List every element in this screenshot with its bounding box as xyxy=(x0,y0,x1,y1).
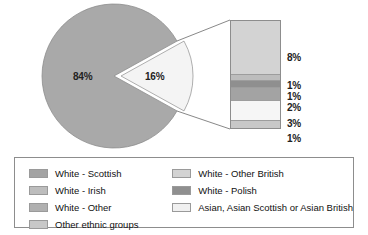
bar-segment-scottish xyxy=(231,88,280,101)
legend-label: White - Scottish xyxy=(55,169,122,179)
callout-line-bottom xyxy=(177,111,230,129)
callout-line-top xyxy=(177,20,230,41)
legend-label: Asian, Asian Scottish or Asian British xyxy=(198,203,353,213)
chart-figure: 84% 16% 8% 1% 1% 2% 3% 1% White - Scotti… xyxy=(0,0,368,235)
legend-label: White - Other xyxy=(55,203,112,213)
legend-item-white-scottish: White - Scottish xyxy=(29,165,172,182)
legend-column-right: White - Other British White - Polish Asi… xyxy=(172,165,353,233)
stacked-bar-labels: 8% 1% 1% 2% 3% 1% xyxy=(287,20,327,129)
legend-item-white-polish: White - Polish xyxy=(172,182,353,199)
legend-label: White - Other British xyxy=(198,169,284,179)
legend-swatch-icon xyxy=(29,186,48,195)
bar-segment-polish xyxy=(231,81,280,88)
bar-label-5: 1% xyxy=(287,133,301,144)
legend-swatch-icon xyxy=(29,169,48,178)
legend-label: Other ethnic groups xyxy=(55,220,138,230)
legend-label: White - Polish xyxy=(198,186,257,196)
legend-swatch-icon xyxy=(172,169,191,178)
stacked-bar xyxy=(230,20,281,129)
legend-item-other-ethnic-groups: Other ethnic groups xyxy=(29,216,172,233)
bar-segment-asian xyxy=(231,101,280,121)
legend-item-asian: Asian, Asian Scottish or Asian British xyxy=(172,199,353,216)
bar-segment-other-british xyxy=(231,21,280,75)
pie-label-16: 16% xyxy=(145,71,164,82)
bar-label-4: 3% xyxy=(287,118,301,129)
legend-item-white-other-british: White - Other British xyxy=(172,165,353,182)
bar-label-1: 1% xyxy=(287,80,301,91)
legend-item-white-irish: White - Irish xyxy=(29,182,172,199)
legend-swatch-icon xyxy=(172,186,191,195)
legend-label: White - Irish xyxy=(55,186,106,196)
bar-label-3: 2% xyxy=(287,102,301,113)
legend-swatch-icon xyxy=(29,220,48,229)
legend: White - Scottish White - Irish White - O… xyxy=(14,157,354,228)
legend-swatch-icon xyxy=(29,203,48,212)
pie-label-84: 84% xyxy=(73,71,92,82)
legend-swatch-icon xyxy=(172,203,191,212)
bar-segment-irish xyxy=(231,75,280,82)
legend-column-left: White - Scottish White - Irish White - O… xyxy=(29,165,172,233)
legend-item-white-other: White - Other xyxy=(29,199,172,216)
bar-label-0: 8% xyxy=(287,52,301,63)
bar-label-2: 1% xyxy=(287,91,301,102)
bar-segment-other-ethnic xyxy=(231,121,280,128)
